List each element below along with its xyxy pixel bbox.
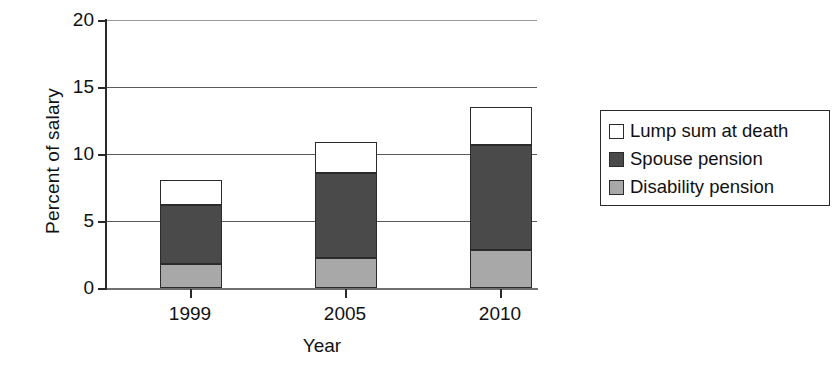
x-tick-label-2005: 2005 [285, 303, 405, 325]
chart-legend: Lump sum at death Spouse pension Disabil… [600, 110, 830, 206]
y-tick-label-20: 20 [48, 10, 94, 29]
y-tick-15 [98, 87, 107, 89]
y-tick-label-10: 10 [48, 144, 94, 163]
legend-item-disability-pension: Disability pension [609, 173, 829, 201]
y-tick-label-15: 15 [48, 77, 94, 96]
bar-2010-segment-disability-pension [470, 250, 532, 289]
bar-2005-segment-spouse-pension [315, 173, 377, 258]
legend-swatch-spouse-pension [609, 152, 624, 167]
legend-item-spouse-pension: Spouse pension [609, 145, 829, 173]
bar-1999-segment-disability-pension [160, 264, 222, 288]
y-tick-label-0: 0 [48, 278, 94, 297]
legend-swatch-lump-sum-at-death [609, 124, 624, 139]
legend-item-lump-sum-at-death: Lump sum at death [609, 117, 829, 145]
x-tick-label-2010: 2010 [440, 303, 560, 325]
bar-1999-segment-lump-sum-at-death [160, 180, 222, 206]
bar-2005-segment-disability-pension [315, 258, 377, 289]
y-tick-20 [98, 20, 107, 22]
y-tick-label-5: 5 [48, 211, 94, 230]
bar-2005-segment-lump-sum-at-death [315, 142, 377, 173]
legend-label-lump-sum-at-death: Lump sum at death [630, 122, 788, 141]
bar-2005 [315, 0, 377, 300]
y-tick-10 [98, 154, 107, 156]
bar-2010-segment-spouse-pension [470, 145, 532, 250]
bar-2010 [470, 0, 532, 300]
bar-2010-segment-lump-sum-at-death [470, 107, 532, 145]
legend-label-disability-pension: Disability pension [630, 178, 774, 197]
y-tick-0 [98, 288, 107, 290]
legend-label-spouse-pension: Spouse pension [630, 150, 763, 169]
y-tick-5 [98, 221, 107, 223]
bar-1999-segment-spouse-pension [160, 205, 222, 264]
x-axis-title: Year [107, 335, 537, 357]
x-tick-label-1999: 1999 [130, 303, 250, 325]
bar-1999 [160, 0, 222, 300]
legend-swatch-disability-pension [609, 180, 624, 195]
stacked-bar-chart: Percent of salary 20 15 10 5 0 1999 2005… [0, 0, 835, 373]
